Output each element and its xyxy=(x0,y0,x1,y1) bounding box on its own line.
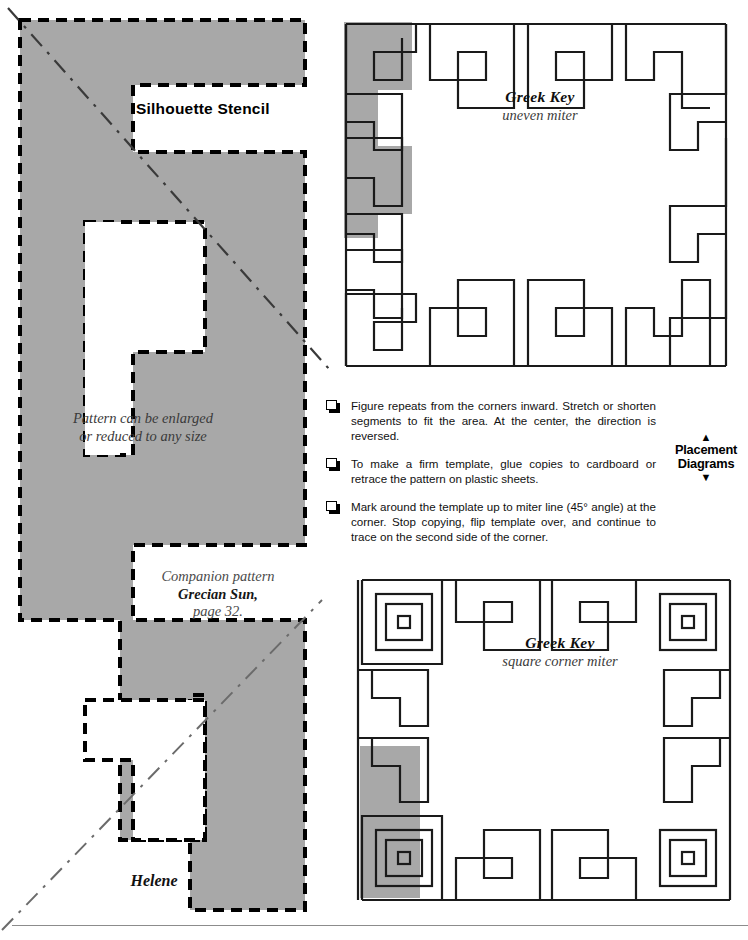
checkbox-icon xyxy=(326,400,340,413)
instruction-item: To make a firm template, glue copies to … xyxy=(326,456,656,486)
companion-name: Grecian Sun, xyxy=(178,586,258,602)
greek-key-uneven-miter-diagram xyxy=(336,14,736,376)
checkbox-icon xyxy=(326,501,340,514)
pattern-name: Helene xyxy=(64,872,244,890)
instruction-text: Mark around the template up to miter lin… xyxy=(351,499,656,544)
companion-label: Companion pattern xyxy=(161,568,274,584)
placement-line-1: Placement xyxy=(664,443,748,457)
silhouette-stencil-panel: Silhouette Stencil Pattern can be enlarg… xyxy=(0,0,340,940)
instruction-text: Figure repeats from the corners inward. … xyxy=(351,398,656,443)
gk-bottom-subtitle: square corner miter xyxy=(430,653,690,670)
placement-line-2: Diagrams xyxy=(664,457,748,471)
checkbox-icon xyxy=(326,458,340,471)
stencil-shape xyxy=(0,0,340,940)
placement-diagrams-marker: ▲ Placement Diagrams ▼ xyxy=(664,432,748,483)
instruction-list: Figure repeats from the corners inward. … xyxy=(326,398,656,557)
companion-page: page 32. xyxy=(193,603,243,619)
gk-bottom-title: Greek Key xyxy=(430,634,690,653)
instruction-text: To make a firm template, glue copies to … xyxy=(351,456,656,486)
page-canvas: Silhouette Stencil Pattern can be enlarg… xyxy=(0,0,748,940)
greek-key-square-corner-diagram xyxy=(352,574,740,906)
enlarge-note: Pattern can be enlarged or reduced to an… xyxy=(18,410,268,445)
greek-key-square-corner-svg xyxy=(352,574,740,906)
gk-top-title: Greek Key xyxy=(420,88,660,107)
companion-pattern-note: Companion pattern Grecian Sun, page 32. xyxy=(120,568,316,621)
footer-divider xyxy=(12,925,748,926)
gk-top-subtitle: uneven miter xyxy=(420,107,660,124)
page-title: Silhouette Stencil xyxy=(136,100,326,118)
instruction-item: Mark around the template up to miter lin… xyxy=(326,499,656,544)
greek-key-square-corner-label: Greek Key square corner miter xyxy=(430,634,690,670)
instruction-item: Figure repeats from the corners inward. … xyxy=(326,398,656,443)
greek-key-uneven-miter-label: Greek Key uneven miter xyxy=(420,88,660,124)
arrow-down-icon: ▼ xyxy=(664,472,748,483)
greek-key-uneven-miter-svg xyxy=(336,14,736,376)
